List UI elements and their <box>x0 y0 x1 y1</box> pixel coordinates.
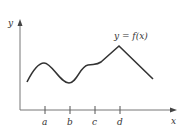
y-axis-label: y <box>7 18 14 28</box>
function-label: y = f(x) <box>113 31 148 41</box>
function-graph: y x a b c d y = f(x) <box>0 0 183 130</box>
tick-label-b: b <box>67 117 73 127</box>
y-axis-arrow-icon <box>18 19 23 26</box>
tick-label-c: c <box>92 117 97 127</box>
function-curve <box>27 46 153 83</box>
x-axis-arrow-icon <box>170 108 177 113</box>
tick-label-d: d <box>117 117 123 127</box>
tick-label-a: a <box>42 117 47 127</box>
x-axis-label: x <box>171 116 176 126</box>
